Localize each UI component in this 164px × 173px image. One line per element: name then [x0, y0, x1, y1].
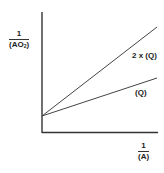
x-axis-label-denominator: (A): [138, 152, 149, 161]
y-axis-label-denominator: (AO2): [9, 40, 29, 49]
x-axis-label-numerator: 1: [141, 142, 145, 151]
label-2xQ: 2 x (Q): [132, 51, 157, 60]
line-Q: [42, 78, 157, 116]
y-axis-label-numerator: 1: [17, 30, 21, 39]
x-axis-label: 1 (A): [138, 142, 149, 161]
label-Q: (Q): [135, 88, 147, 97]
line-2xQ: [42, 27, 157, 116]
y-axis-label: 1 (AO2): [9, 30, 29, 49]
